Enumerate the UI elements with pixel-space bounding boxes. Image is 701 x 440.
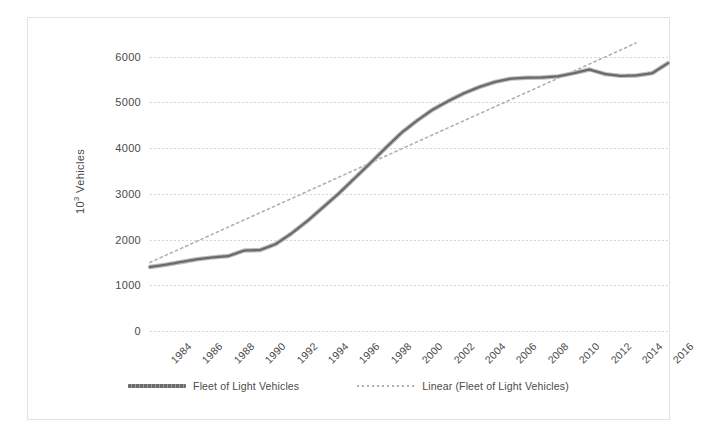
legend-swatch-solid-line-icon (128, 384, 186, 388)
y-tick-label: 5000 (115, 96, 141, 108)
chart-frame: 103 Vehicles 6000500040003000200010000 1… (27, 17, 670, 420)
series-line-fleet-of-light-vehicles (150, 63, 668, 267)
legend-item[interactable]: Linear (Fleet of Light Vehicles) (357, 380, 569, 392)
legend-label: Linear (Fleet of Light Vehicles) (422, 380, 569, 392)
x-tick-label: 1990 (262, 340, 288, 366)
y-tick-label: 2000 (115, 234, 141, 246)
series-line-halo (150, 63, 668, 267)
legend-item[interactable]: Fleet of Light Vehicles (128, 380, 299, 392)
y-axis-title-unit: Vehicles (74, 149, 86, 197)
gridline-0 (150, 331, 668, 332)
x-tick-label: 1996 (356, 340, 382, 366)
x-tick-label: 2008 (545, 340, 571, 366)
x-tick-label: 1998 (388, 340, 414, 366)
legend-label: Fleet of Light Vehicles (193, 380, 299, 392)
y-axis-title: 103 Vehicles (72, 149, 86, 214)
chart-figure: 103 Vehicles 6000500040003000200010000 1… (0, 0, 701, 440)
x-tick-label: 2010 (576, 340, 602, 366)
x-tick-label: 2014 (639, 340, 665, 366)
y-tick-label: 0 (135, 325, 141, 337)
chart-legend: Fleet of Light VehiclesLinear (Fleet of … (28, 380, 669, 392)
x-tick-label: 1994 (325, 340, 351, 366)
y-tick-label: 6000 (115, 51, 141, 63)
x-tick-label: 2000 (419, 340, 445, 366)
x-tick-label: 1988 (231, 340, 257, 366)
legend-swatch-dotted-line-icon (357, 385, 415, 387)
y-axis-title-exponent: 3 (72, 196, 81, 201)
x-tick-label: 2006 (513, 340, 539, 366)
x-tick-label: 1986 (199, 340, 225, 366)
series-layer (150, 43, 668, 331)
x-tick-label: 2004 (482, 340, 508, 366)
y-axis-title-base: 10 (74, 201, 86, 214)
x-tick-label: 2002 (451, 340, 477, 366)
y-tick-label: 3000 (115, 188, 141, 200)
y-tick-label: 1000 (115, 279, 141, 291)
plot-area: 6000500040003000200010000 19841986198819… (150, 43, 668, 331)
x-tick-label: 2016 (670, 340, 696, 366)
y-tick-label: 4000 (115, 142, 141, 154)
x-tick-label: 2012 (608, 340, 634, 366)
x-tick-label: 1992 (294, 340, 320, 366)
x-tick-label: 1984 (168, 340, 194, 366)
